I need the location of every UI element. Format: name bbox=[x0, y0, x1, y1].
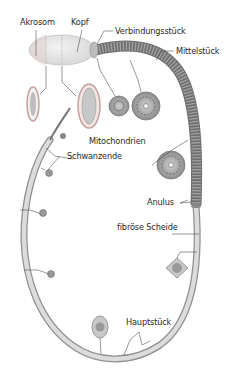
label-schwanzende: Schwanzende bbox=[67, 152, 122, 160]
label-fibroese-scheide: fibröse Scheide bbox=[117, 223, 178, 231]
cross-section-midpiece-upper bbox=[132, 92, 160, 120]
cross-section-principal-bottom bbox=[92, 316, 108, 338]
cross-section-midpiece-lower bbox=[157, 151, 185, 179]
cross-section-endpiece-1 bbox=[60, 133, 66, 139]
label-verbindungsstueck: Verbindungsstück bbox=[115, 27, 186, 35]
anulus-ring bbox=[191, 204, 201, 208]
diagram-canvas bbox=[0, 0, 236, 381]
cross-section-endpiece-2 bbox=[46, 170, 53, 177]
label-hauptstueck: Hauptstück bbox=[126, 318, 171, 326]
label-anulus: Anulus bbox=[147, 198, 174, 206]
label-kopf: Kopf bbox=[71, 18, 88, 26]
cross-section-principal-right bbox=[166, 258, 188, 278]
label-akrosom: Akrosom bbox=[20, 18, 55, 26]
sperm-diagram: Akrosom Kopf Verbindungsstück Mittelstüc… bbox=[0, 0, 236, 381]
cross-section-acrosome bbox=[27, 87, 39, 121]
cross-section-connecting-piece bbox=[109, 96, 129, 116]
leader-lines bbox=[20, 30, 199, 355]
label-mittelstueck: Mittelstück bbox=[176, 47, 219, 55]
label-mitochondrien: Mitochondrien bbox=[89, 137, 146, 145]
tail-end bbox=[50, 108, 70, 140]
sperm-head bbox=[29, 35, 98, 65]
cross-section-head bbox=[78, 84, 100, 128]
cross-section-endpiece-3 bbox=[40, 210, 47, 217]
midpiece bbox=[96, 46, 197, 205]
